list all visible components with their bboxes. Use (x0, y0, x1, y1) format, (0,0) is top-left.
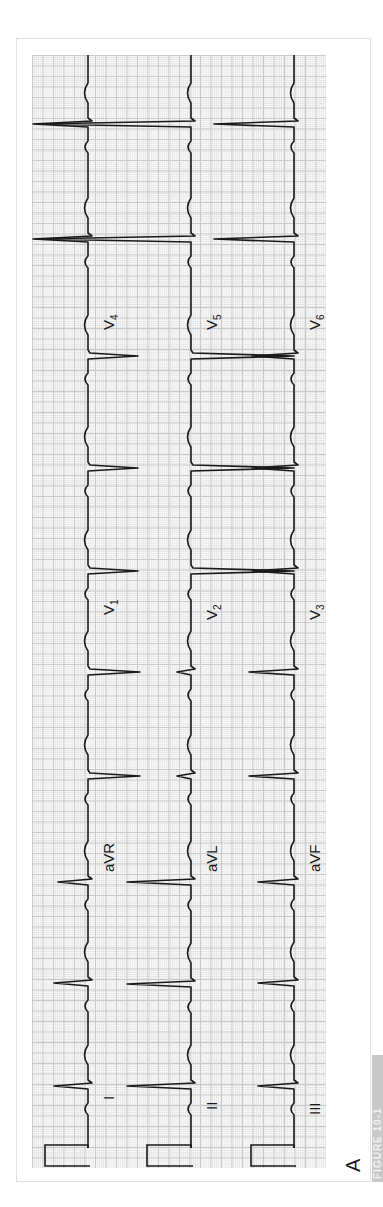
lead-label-v5: V5 (203, 314, 223, 330)
calibration-pulse (251, 1145, 296, 1166)
lead-label-v3: V3 (306, 604, 326, 620)
panel-letter: A (342, 1159, 365, 1172)
lead-label-avr: aVR (100, 843, 117, 872)
lead-label-i: I (100, 1096, 117, 1100)
figure-caption-strip: FIGURE 10-1 (372, 1055, 383, 1182)
lead-label-iii: III (306, 1102, 323, 1115)
lead-label-avf: aVF (306, 844, 323, 872)
lead-label-ii: II (203, 1102, 220, 1110)
lead-label-avl: aVL (203, 845, 220, 872)
figure-caption: FIGURE 10-1 (372, 1107, 383, 1179)
calibration-pulse (45, 1145, 90, 1166)
lead-label-v2: V2 (203, 604, 223, 620)
lead-label-v1: V1 (100, 599, 120, 615)
ecg-trace-row-3 (214, 55, 298, 1148)
calibration-pulse (147, 1145, 193, 1166)
lead-label-v4: V4 (100, 314, 120, 330)
lead-label-v6: V6 (306, 314, 326, 330)
ecg-trace-row-1 (33, 55, 140, 1148)
